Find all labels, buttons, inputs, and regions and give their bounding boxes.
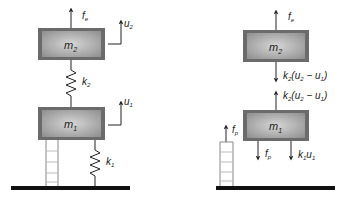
- two-mass-diagram: fe m2 u2 k2 m1 u1: [0, 0, 343, 199]
- mass-m1-block: m1: [38, 107, 105, 140]
- spring-k2-label: k2: [82, 76, 91, 88]
- fbd-spring-force-m1-label: k2(u2 − u1): [283, 90, 327, 102]
- mass-m2-block: m2: [38, 28, 105, 60]
- spring-k1-icon: [90, 140, 100, 187]
- fbd-spring-force-m2-label: k2(u2 − u1): [283, 70, 327, 82]
- fbd-mass-m1-block: m1: [243, 110, 309, 141]
- fbd-force-fe-label: fe: [288, 11, 295, 23]
- ground-left: [11, 186, 130, 190]
- fbd-mass-m2-block: m2: [243, 30, 309, 62]
- fbd-fp-down-label: fp: [265, 148, 272, 160]
- displacement-u2-arrow-icon: [108, 22, 121, 44]
- fbd-k1u1-label: k1u1: [298, 149, 315, 161]
- fbd-ladder-element-icon: [220, 142, 233, 187]
- displacement-u1-label: u1: [124, 96, 133, 108]
- force-fe-label: fe: [82, 10, 89, 22]
- ground-right: [216, 186, 335, 190]
- ladder-element-icon: [46, 140, 58, 187]
- displacement-u2-label: u2: [124, 18, 134, 30]
- displacement-u1-arrow-icon: [108, 103, 121, 125]
- spring-k2-icon: [66, 60, 76, 107]
- right-free-body: fe m2 k2(u2 − u1) k2(u2 − u1) m1 fp k1u1…: [216, 11, 335, 190]
- left-system: fe m2 u2 k2 m1 u1: [11, 10, 134, 190]
- spring-k1-label: k1: [106, 156, 114, 168]
- fbd-fp-up-label: fp: [232, 124, 239, 136]
